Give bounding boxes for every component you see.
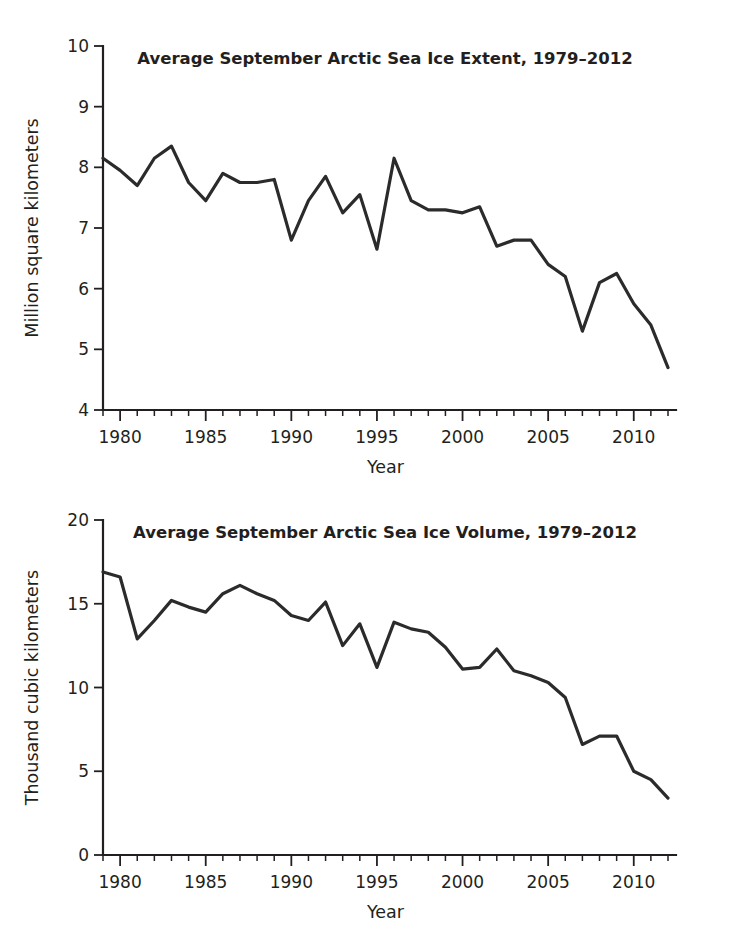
y-tick-label: 10 — [67, 678, 89, 698]
x-tick-label: 2000 — [441, 427, 484, 447]
extent-chart-svg: 456789101980198519901995200020052010Year… — [0, 0, 690, 480]
x-tick-label: 1985 — [184, 872, 227, 892]
volume-chart-svg: 051015201980198519901995200020052010Year… — [0, 490, 690, 949]
y-tick-label: 5 — [78, 339, 89, 359]
source-credit-text: (Compiled by the authors using data from… — [738, 940, 744, 949]
x-tick-label: 2010 — [612, 427, 655, 447]
x-tick-label: 1990 — [270, 872, 313, 892]
chart-panel-volume: 051015201980198519901995200020052010Year… — [0, 490, 690, 949]
y-tick-label: 9 — [78, 97, 89, 117]
source-credit: (Compiled by the authors using data from… — [698, 0, 742, 949]
figure-container: 456789101980198519901995200020052010Year… — [0, 0, 690, 949]
y-tick-label: 8 — [78, 157, 89, 177]
x-tick-label: 1995 — [355, 427, 398, 447]
y-tick-label: 6 — [78, 279, 89, 299]
x-axis-title: Year — [366, 457, 405, 477]
x-tick-label: 1990 — [270, 427, 313, 447]
y-tick-label: 5 — [78, 761, 89, 781]
y-tick-label: 0 — [78, 845, 89, 865]
chart-panel-extent: 456789101980198519901995200020052010Year… — [0, 0, 690, 480]
x-tick-label: 1980 — [98, 427, 141, 447]
y-tick-label: 10 — [67, 36, 89, 56]
x-tick-label: 1995 — [355, 872, 398, 892]
data-series-line — [103, 572, 668, 798]
y-tick-label: 20 — [67, 510, 89, 530]
x-tick-label: 1985 — [184, 427, 227, 447]
x-tick-label: 2005 — [527, 427, 570, 447]
x-tick-label: 1980 — [98, 872, 141, 892]
y-tick-label: 15 — [67, 594, 89, 614]
y-axis-title: Thousand cubic kilometers — [22, 570, 42, 806]
y-tick-label: 7 — [78, 218, 89, 238]
y-axis-title: Million square kilometers — [22, 118, 42, 337]
data-series-line — [103, 146, 668, 367]
x-tick-label: 2000 — [441, 872, 484, 892]
y-tick-label: 4 — [78, 400, 89, 420]
x-axis-title: Year — [366, 902, 405, 922]
chart-title: Average September Arctic Sea Ice Extent,… — [137, 49, 632, 68]
x-tick-label: 2010 — [612, 872, 655, 892]
chart-title: Average September Arctic Sea Ice Volume,… — [133, 523, 637, 542]
x-tick-label: 2005 — [527, 872, 570, 892]
